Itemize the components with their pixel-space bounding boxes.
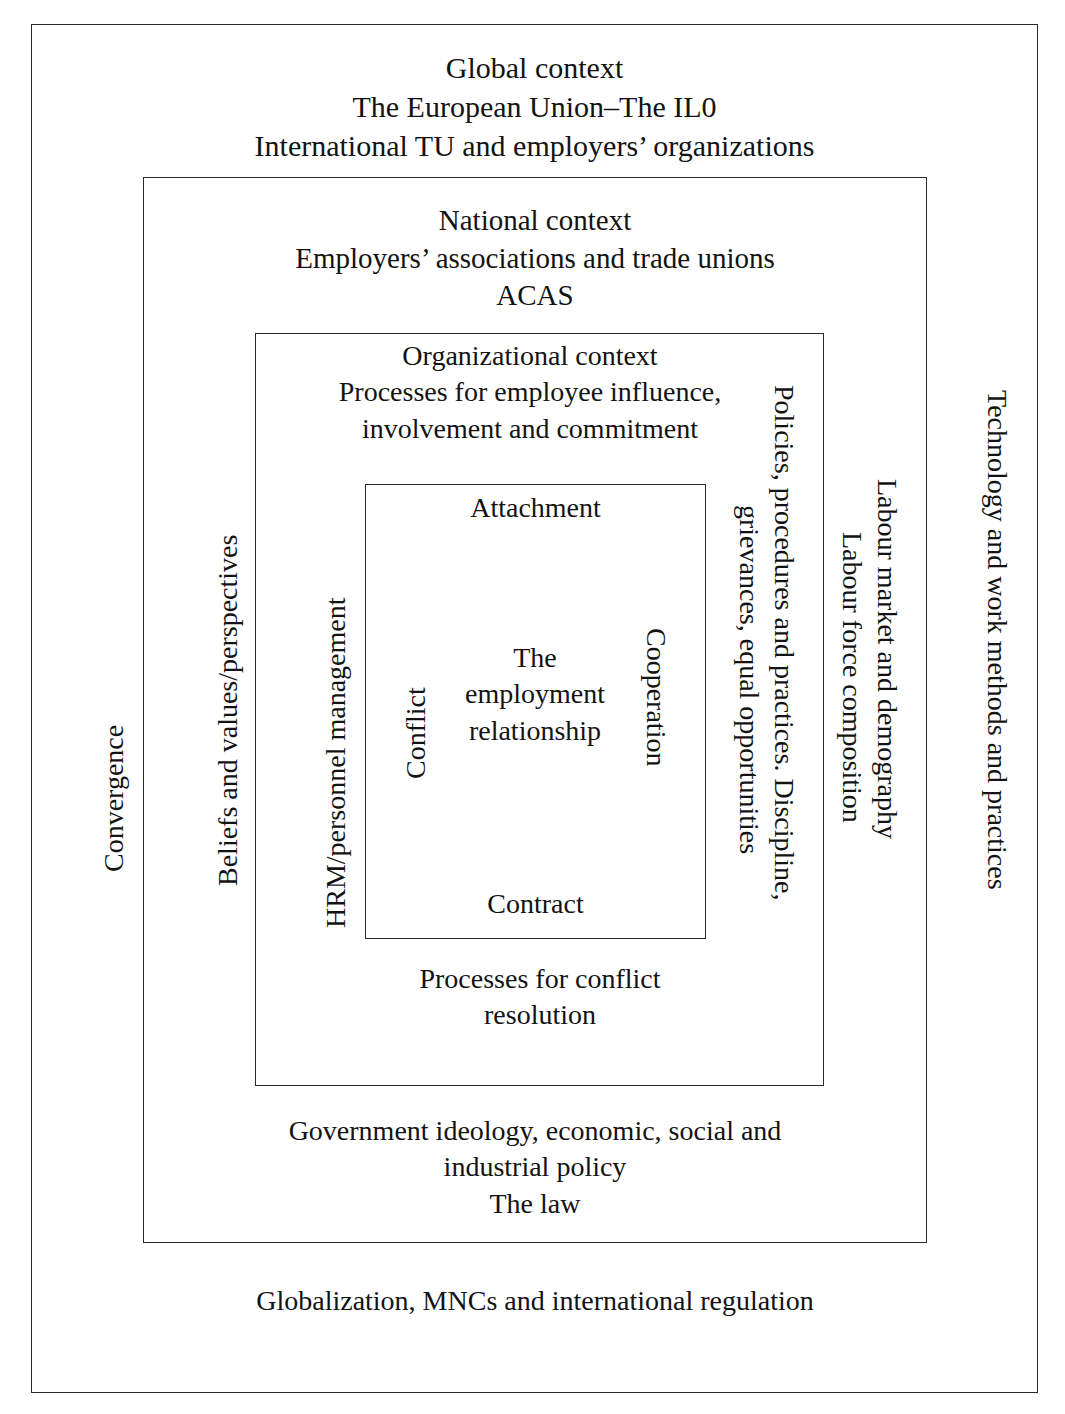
policies-procedures-practices-label: Policies, procedures and practices. Disc… [768,385,800,901]
convergence-label: Convergence [98,725,130,872]
grievances-equal-opportunities-label: grievances, equal opportunities [733,505,765,854]
contract-label: Contract [365,886,706,922]
technology-and-work-methods-label: Technology and work methods and practice… [981,390,1013,890]
global-context-heading: Global context The European Union–The IL… [31,48,1038,165]
cooperation-label: Cooperation [640,628,672,766]
labour-market-and-demography-label: Labour market and demography [871,479,903,839]
national-context-heading: National context Employers’ associations… [143,202,927,315]
globalization-note: Globalization, MNCs and international re… [40,1283,1030,1319]
government-policy-note: Government ideology, economic, social an… [155,1113,915,1222]
hrm-personnel-management-label: HRM/personnel management [320,598,352,928]
labour-force-composition-label: Labour force composition [836,532,868,823]
employment-relationship-core-label: The employment relationship [390,640,680,749]
organizational-context-heading: Organizational context Processes for emp… [275,338,785,447]
diagram-canvas: Global context The European Union–The IL… [0,0,1065,1414]
conflict-resolution-note: Processes for conflict resolution [300,961,780,1034]
beliefs-and-values-label: Beliefs and values/perspectives [212,535,244,886]
attachment-label: Attachment [365,490,706,526]
